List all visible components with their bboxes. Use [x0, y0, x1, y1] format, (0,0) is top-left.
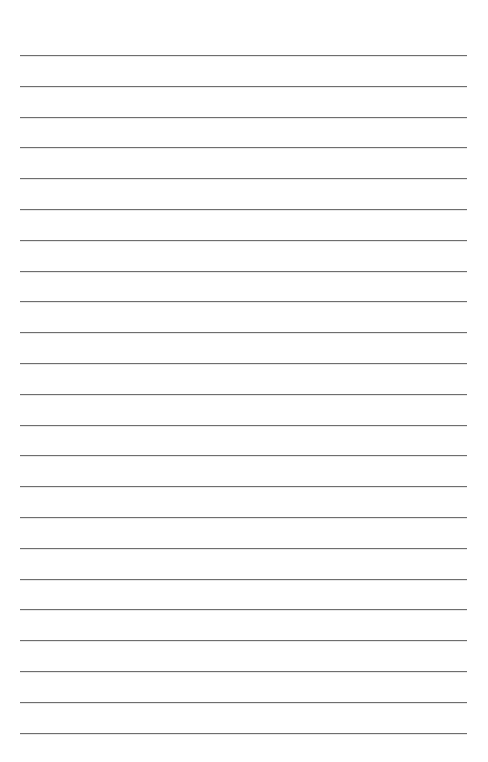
ruled-line: [20, 240, 467, 241]
ruled-line: [20, 363, 467, 364]
ruled-line: [20, 86, 467, 87]
ruled-line: [20, 733, 467, 734]
ruled-line: [20, 702, 467, 703]
ruled-line: [20, 271, 467, 272]
ruled-line: [20, 301, 467, 302]
ruled-line: [20, 394, 467, 395]
ruled-line: [20, 209, 467, 210]
ruled-line: [20, 117, 467, 118]
ruled-line: [20, 147, 467, 148]
ruled-line: [20, 517, 467, 518]
ruled-line: [20, 609, 467, 610]
ruled-line: [20, 455, 467, 456]
ruled-line: [20, 425, 467, 426]
ruled-line: [20, 178, 467, 179]
ruled-line: [20, 579, 467, 580]
ruled-line: [20, 548, 467, 549]
ruled-line: [20, 486, 467, 487]
ruled-line: [20, 55, 467, 56]
ruled-line: [20, 671, 467, 672]
ruled-line: [20, 640, 467, 641]
ruled-line: [20, 332, 467, 333]
lined-paper-page: [0, 0, 488, 762]
